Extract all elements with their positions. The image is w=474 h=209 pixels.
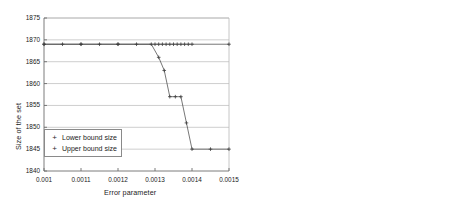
y-tick-label: 1875 xyxy=(0,14,40,21)
x-tick-label: 0.0014 xyxy=(174,176,210,183)
legend-item[interactable]: +Upper bound size xyxy=(47,143,117,154)
legend-item[interactable]: +Lower bound size xyxy=(47,132,117,143)
x-tick-label: 0.001 xyxy=(26,176,62,183)
legend-item-label: Upper bound size xyxy=(62,145,117,152)
figure-root: Size of the set Error parameter +Lower b… xyxy=(0,0,474,209)
chart-size-of-set: Size of the set Error parameter +Lower b… xyxy=(0,0,237,209)
chart-probability-initial-state: Probability on initial state Error param… xyxy=(237,0,474,209)
y-tick-label: 1860 xyxy=(0,80,40,87)
legend-marker-icon: + xyxy=(47,144,62,153)
x-tick-label: 0.0011 xyxy=(63,176,99,183)
y-tick-label: 1850 xyxy=(0,123,40,130)
y-tick-label: 1865 xyxy=(0,58,40,65)
y-tick-label: 1845 xyxy=(0,145,40,152)
legend-left: +Lower bound size+Upper bound size xyxy=(44,129,122,157)
y-tick-label: 1855 xyxy=(0,101,40,108)
x-tick-label: 0.0012 xyxy=(100,176,136,183)
y-tick-label: 1870 xyxy=(0,36,40,43)
x-axis-title-left: Error parameter xyxy=(104,188,156,197)
x-tick-label: 0.0013 xyxy=(137,176,173,183)
y-tick-label: 1840 xyxy=(0,167,40,174)
plot-area-right xyxy=(237,0,474,209)
legend-item-label: Lower bound size xyxy=(62,134,117,141)
legend-marker-icon: + xyxy=(47,133,62,142)
